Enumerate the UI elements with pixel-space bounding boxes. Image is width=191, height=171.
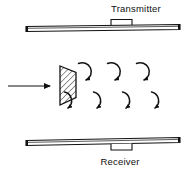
receiver-tab bbox=[111, 144, 132, 150]
receiver-bar bbox=[26, 138, 180, 146]
vortex-arrow-upper-3 bbox=[137, 63, 150, 80]
transmitter-label: Transmitter bbox=[111, 3, 161, 14]
vortex-arrow-lower-3 bbox=[123, 92, 130, 108]
bluff-body-hatched-shape bbox=[60, 66, 76, 105]
receiver-label: Receiver bbox=[100, 156, 139, 167]
transmitter-right-cap bbox=[178, 25, 180, 30]
transmitter-left-cap bbox=[26, 27, 28, 32]
receiver-assembly bbox=[26, 138, 180, 151]
vortex-arrow-upper-2 bbox=[108, 63, 121, 80]
vortex-row-lower bbox=[65, 92, 159, 108]
transmitter-assembly bbox=[26, 20, 180, 32]
transmitter-tab bbox=[111, 20, 132, 26]
vortex-flowmeter-figure: Transmitter bbox=[0, 0, 191, 171]
vortex-row-upper bbox=[79, 63, 150, 80]
diagram-canvas: Transmitter bbox=[0, 0, 191, 171]
bluff-body-wedge bbox=[60, 66, 76, 105]
vortex-arrow-lower-4 bbox=[152, 92, 159, 108]
receiver-left-cap bbox=[26, 141, 28, 146]
receiver-right-cap bbox=[178, 138, 180, 143]
vortex-arrow-lower-2 bbox=[94, 92, 101, 108]
vortex-arrow-upper-1 bbox=[79, 63, 92, 80]
